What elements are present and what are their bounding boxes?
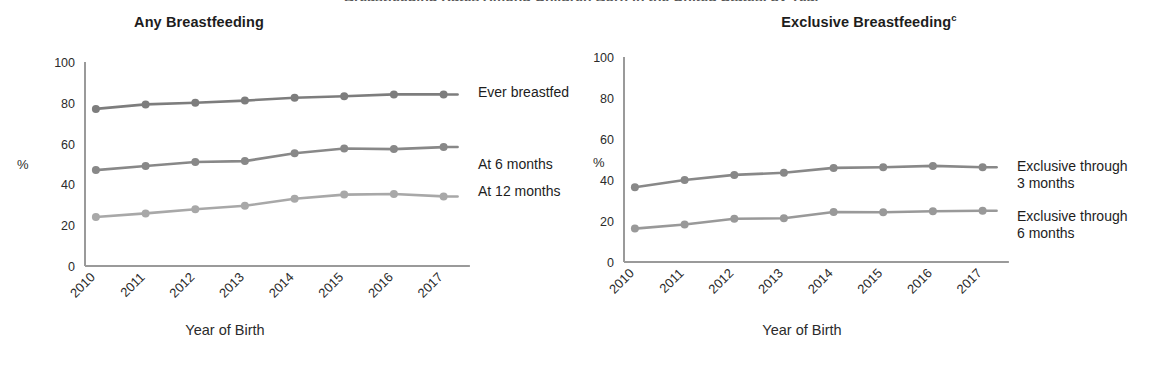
svg-text:20: 20: [61, 219, 75, 233]
legend-line-2: 3 months: [1017, 175, 1075, 191]
svg-text:40: 40: [600, 174, 614, 188]
svg-text:2012: 2012: [166, 270, 197, 301]
legend-label-exclusive-3-months: Exclusive through 3 months: [1017, 158, 1128, 192]
svg-text:2014: 2014: [266, 270, 297, 301]
svg-text:40: 40: [61, 178, 75, 192]
legend-label-at-6-months: At 6 months: [478, 156, 553, 173]
legend-label-exclusive-6-months: Exclusive through 6 months: [1017, 208, 1128, 242]
legend-line-1: Exclusive through: [1017, 158, 1128, 174]
svg-text:80: 80: [61, 97, 75, 111]
legend-line-2: 6 months: [1017, 225, 1075, 241]
svg-text:2013: 2013: [755, 266, 786, 297]
svg-text:2017: 2017: [954, 266, 985, 297]
x-axis-title-right: Year of Birth: [702, 322, 902, 338]
legend-line-1: Exclusive through: [1017, 208, 1128, 224]
legend-label-ever-breastfed: Ever breastfed: [478, 84, 569, 101]
svg-text:2016: 2016: [904, 266, 935, 297]
svg-text:60: 60: [61, 138, 75, 152]
svg-text:2015: 2015: [854, 266, 885, 297]
svg-text:2011: 2011: [656, 266, 686, 296]
figure-root: Breastfeeding Rates Among Children Born …: [0, 0, 1164, 365]
svg-text:2017: 2017: [415, 270, 446, 301]
svg-text:60: 60: [600, 133, 614, 147]
x-axis-title-left: Year of Birth: [125, 322, 325, 338]
svg-text:0: 0: [68, 260, 75, 274]
svg-text:2013: 2013: [216, 270, 247, 301]
svg-text:2014: 2014: [805, 266, 836, 297]
panel-any-breastfeeding: Any Breastfeeding % Year of Birth 020406…: [0, 0, 582, 365]
panel-exclusive-breastfeeding: Exclusive Breastfeedingc % Year of Birth…: [582, 0, 1164, 365]
svg-text:2012: 2012: [705, 266, 736, 297]
svg-text:2016: 2016: [365, 270, 396, 301]
legend-label-at-12-months: At 12 months: [478, 183, 561, 200]
svg-text:80: 80: [600, 92, 614, 106]
svg-text:2015: 2015: [315, 270, 346, 301]
svg-text:100: 100: [593, 51, 614, 65]
svg-text:2010: 2010: [67, 270, 98, 301]
svg-text:2011: 2011: [117, 270, 147, 300]
svg-text:100: 100: [54, 56, 75, 70]
svg-text:0: 0: [607, 256, 614, 270]
svg-text:20: 20: [600, 215, 614, 229]
svg-text:2010: 2010: [606, 266, 637, 297]
